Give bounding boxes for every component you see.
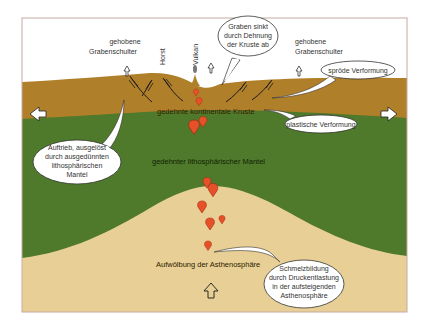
shoulder-left-label-2: Grabenschulter xyxy=(89,48,138,55)
callout-auftrieb-line-4: Mantel xyxy=(66,171,87,178)
vulkan-label: Vulkan xyxy=(192,44,199,65)
callout-schmelz-line-2: durch Druckentlastung xyxy=(269,274,339,282)
callout-graben-line-2: durch Dehnung xyxy=(224,32,272,40)
callout-auftrieb-line-2: durch ausgedünnten xyxy=(45,153,109,161)
callout-schmelz-line-3: in der aufsteigenden xyxy=(272,283,336,291)
shoulder-right-label-1: gehobene xyxy=(295,38,326,46)
callout-auftrieb-line-3: lithosphärischen xyxy=(52,162,103,170)
callout-graben-line-3: der Kruste ab xyxy=(227,41,269,48)
callout-schmelz-line-1: Schmelzbildung xyxy=(279,265,329,273)
crust-label: gedehnte kontinentale Kruste xyxy=(157,107,255,116)
callout-sproede-text: spröde Verformung xyxy=(328,67,388,75)
asthenosphere-label: Aufwölbung der Asthenosphäre xyxy=(156,260,260,269)
rift-diagram: gehobene Grabenschulter Horst Vulkan geh… xyxy=(0,0,421,332)
mantle-label: gedehnter lithosphärischer Mantel xyxy=(152,157,265,166)
shoulder-left-label-1: gehobene xyxy=(109,38,140,46)
callout-schmelz-line-4: Asthenosphäre xyxy=(280,292,327,300)
horst-label: Horst xyxy=(159,48,166,65)
callout-auftrieb-line-1: Auftrieb, ausgelöst xyxy=(48,144,106,152)
callout-graben-line-1: Graben sinkt xyxy=(228,23,268,30)
shoulder-right-label-2: Grabenschulter xyxy=(295,48,344,55)
callout-plastisch-text: plastische Verformung xyxy=(286,121,355,129)
